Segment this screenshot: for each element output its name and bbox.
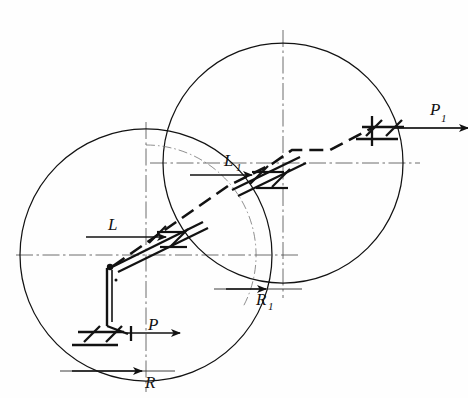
- support-hatched-upper-right: [356, 116, 404, 146]
- label-L: L: [107, 215, 117, 234]
- dashed-linkage-path: [113, 128, 372, 266]
- pivot-dot-small: [115, 279, 118, 282]
- label-R1-subscript: 1: [268, 300, 274, 312]
- diagonal-rail-inner: [118, 228, 208, 272]
- main-diagonal-link: [110, 222, 208, 272]
- label-L1: L: [223, 151, 233, 170]
- support-hatched-mid-right: [250, 166, 290, 188]
- label-P: P: [147, 315, 158, 334]
- dimension-line-group: [60, 128, 468, 371]
- label-P1-subscript: 1: [441, 112, 447, 124]
- label-P1: P: [429, 100, 440, 119]
- upper-diagonal-rail-inner: [238, 163, 306, 196]
- label-R1: R: [255, 290, 267, 309]
- label-L1-subscript: 1: [236, 161, 242, 173]
- label-group: L L 1 P P 1 R R 1: [107, 100, 447, 392]
- centerline-group: [16, 30, 420, 392]
- pivot-point: [107, 264, 113, 270]
- label-R: R: [144, 373, 156, 392]
- diagram-canvas: L L 1 P P 1 R R 1: [0, 0, 468, 398]
- engineering-diagram: L L 1 P P 1 R R 1: [0, 0, 468, 398]
- support-hatched-lower-left: [72, 326, 131, 345]
- diagonal-rail-outer: [110, 222, 203, 268]
- vertical-drop-link: [107, 268, 128, 334]
